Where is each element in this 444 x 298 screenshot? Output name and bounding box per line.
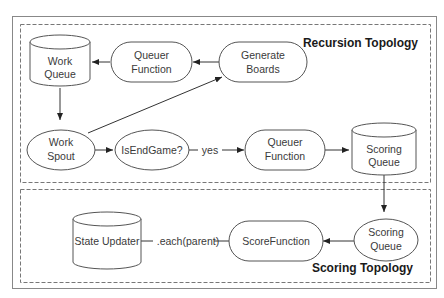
svg-text:Queue: Queue <box>44 68 76 80</box>
node-work-queue: Work Queue <box>30 35 90 86</box>
svg-text:Scoring: Scoring <box>368 226 404 238</box>
svg-text:Queue: Queue <box>368 156 400 168</box>
scoring-topology-title: Scoring Topology <box>312 261 413 275</box>
svg-text:Work: Work <box>49 136 74 148</box>
node-scoring-queue-top: Scoring Queue <box>352 123 416 175</box>
svg-text:Spout: Spout <box>47 150 75 162</box>
svg-text:Queuer: Queuer <box>134 49 170 61</box>
node-is-end-game: IsEndGame? <box>115 130 189 170</box>
svg-text:Function: Function <box>131 63 171 75</box>
svg-text:Generate: Generate <box>241 49 285 61</box>
svg-text:Queuer: Queuer <box>267 136 303 148</box>
node-generate-boards: Generate Boards <box>219 42 307 82</box>
svg-text:Function: Function <box>265 150 305 162</box>
svg-text:ScoreFunction: ScoreFunction <box>242 235 310 247</box>
svg-text:State Updater: State Updater <box>75 235 140 247</box>
svg-text:Queue: Queue <box>370 240 402 252</box>
svg-text:Scoring: Scoring <box>366 143 402 155</box>
node-work-spout: Work Spout <box>27 130 95 170</box>
node-queuer-function-mid: Queuer Function <box>245 130 325 170</box>
topology-diagram: Recursion Topology Scoring Topology yes … <box>0 0 444 298</box>
node-state-updater: State Updater <box>73 212 141 269</box>
node-scoring-queue-bottom: Scoring Queue <box>354 219 418 261</box>
node-score-function: ScoreFunction <box>229 221 323 261</box>
edge-label-yes: yes <box>202 144 218 156</box>
edge-spout-to-generate <box>88 77 222 133</box>
svg-text:Work: Work <box>48 55 73 67</box>
svg-text:IsEndGame?: IsEndGame? <box>121 144 182 156</box>
edge-label-each-parent: .each(parent) <box>157 235 219 247</box>
recursion-topology-title: Recursion Topology <box>303 36 418 50</box>
svg-text:Boards: Boards <box>246 63 279 75</box>
node-queuer-function-top: Queuer Function <box>111 42 192 82</box>
